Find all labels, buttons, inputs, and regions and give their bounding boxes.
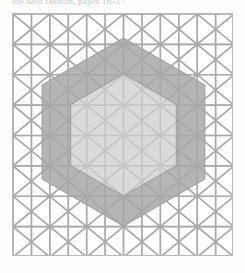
figure-frame — [12, 13, 233, 256]
figure-canvas — [13, 14, 233, 256]
triangular-lattice-overlay — [13, 14, 233, 256]
caption-above-figure: the hard fashion, pages 16–17 — [0, 0, 245, 6]
scanned-page: the hard fashion, pages 16–17 — [0, 0, 245, 273]
